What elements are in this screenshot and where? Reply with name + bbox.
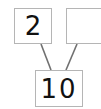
part-box-left: 2 (14, 8, 52, 44)
right-connector (66, 44, 77, 70)
part-box-right[interactable] (66, 8, 101, 44)
whole-value: 10 (40, 74, 77, 104)
left-connector (41, 44, 51, 70)
part-value-left: 2 (25, 11, 42, 41)
whole-box: 10 (35, 70, 83, 107)
